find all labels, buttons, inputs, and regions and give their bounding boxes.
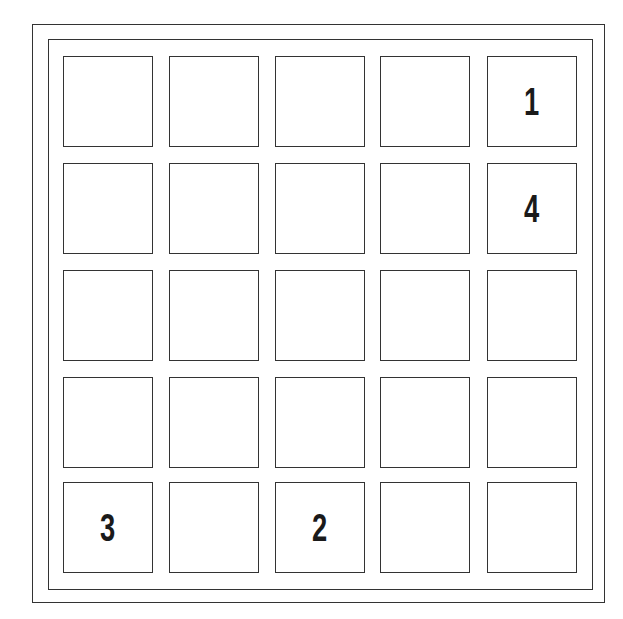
grid-cell-r4-c4[interactable]	[380, 377, 470, 468]
grid-cell-r5-c4[interactable]	[380, 482, 470, 573]
grid-cell-r2-c2[interactable]	[169, 163, 259, 254]
grid-cell-r5-c1[interactable]: 3	[63, 482, 153, 573]
grid-cell-r2-c3[interactable]	[275, 163, 365, 254]
grid-cell-r3-c5[interactable]	[487, 270, 577, 361]
grid-cell-r3-c3[interactable]	[275, 270, 365, 361]
grid-cell-r1-c3[interactable]	[275, 56, 365, 147]
cell-number: 1	[524, 83, 539, 121]
grid-cell-r4-c5[interactable]	[487, 377, 577, 468]
cell-number: 3	[100, 509, 115, 547]
grid-cell-r1-c5[interactable]: 1	[487, 56, 577, 147]
grid-cell-r4-c2[interactable]	[169, 377, 259, 468]
grid-cell-r1-c2[interactable]	[169, 56, 259, 147]
grid-cell-r3-c2[interactable]	[169, 270, 259, 361]
grid-cell-r3-c1[interactable]	[63, 270, 153, 361]
grid-cell-r5-c5[interactable]	[487, 482, 577, 573]
grid-cell-r5-c3[interactable]: 2	[275, 482, 365, 573]
grid-cell-r2-c5[interactable]: 4	[487, 163, 577, 254]
grid-cell-r1-c1[interactable]	[63, 56, 153, 147]
grid-cell-r4-c1[interactable]	[63, 377, 153, 468]
grid-cell-r5-c2[interactable]	[169, 482, 259, 573]
grid-cell-r4-c3[interactable]	[275, 377, 365, 468]
grid-cell-r1-c4[interactable]	[380, 56, 470, 147]
cell-number: 2	[312, 509, 327, 547]
grid-cell-r3-c4[interactable]	[380, 270, 470, 361]
cell-number: 4	[524, 190, 539, 228]
grid-cell-r2-c1[interactable]	[63, 163, 153, 254]
grid-cell-r2-c4[interactable]	[380, 163, 470, 254]
